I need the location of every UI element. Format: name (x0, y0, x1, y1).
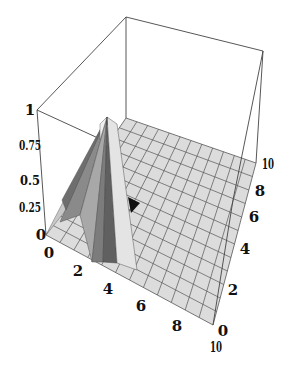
z-tick: 0.75 (19, 138, 41, 153)
y-tick: 0 (218, 322, 228, 340)
y-tick: 10 (262, 155, 274, 173)
z-tick: 0 (36, 226, 46, 244)
z-tick: 0.25 (19, 200, 41, 215)
surface-floor (46, 118, 256, 325)
x-tick: 8 (172, 317, 182, 335)
z-tick: 0.5 (20, 173, 40, 188)
x-tick: 2 (73, 262, 83, 280)
surface-plot: 1 0.75 0.5 0.25 0 0 2 4 6 8 10 0 2 4 6 8… (0, 0, 284, 367)
y-tick: 2 (228, 281, 238, 299)
x-tick: 0 (44, 244, 54, 262)
z-axis-ticks: 1 0.75 0.5 0.25 0 (19, 101, 46, 244)
x-tick: 6 (136, 297, 146, 315)
x-tick: 10 (210, 338, 222, 356)
y-tick: 8 (255, 182, 265, 200)
x-tick: 4 (103, 280, 113, 298)
y-tick: 4 (240, 240, 250, 258)
y-tick: 6 (249, 208, 259, 226)
z-tick: 1 (25, 101, 35, 119)
